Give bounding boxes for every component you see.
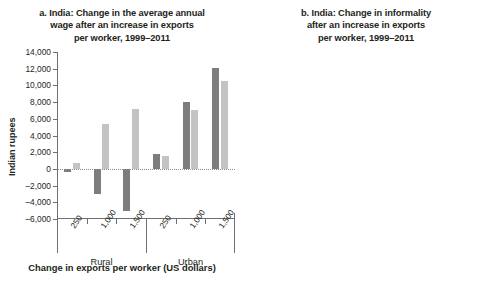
figure-root: a. India: Change in the average annual w… (0, 0, 488, 291)
panel-a-bar-light-1000 (191, 110, 198, 168)
panel-a-y-tick (53, 85, 57, 86)
panel-a-y-tick-label: –6,000 (25, 214, 51, 224)
panel-a-y-tick (53, 136, 57, 137)
panel-a-y-tick-label: 14,000 (25, 47, 51, 57)
panel-b: b. India: Change in informality after an… (244, 0, 488, 291)
panel-a-bar-dark-1000 (94, 169, 101, 194)
panel-a-title-line-1: a. India: Change in the average annual (0, 7, 244, 19)
panel-b-title-line-3: per worker, 1999–2011 (244, 32, 488, 44)
panel-a-y-tick-label: 4,000 (30, 131, 51, 141)
panel-a-plot-area: 14,00012,00010,0008,0006,0004,0002,0000–… (57, 52, 235, 219)
panel-a-title-line-3: per worker, 1999–2011 (0, 32, 244, 44)
panel-a-group-separator (57, 219, 58, 253)
panel-a-y-tick-label: 0 (46, 164, 51, 174)
panel-a-bar-dark-1500 (212, 68, 219, 169)
panel-a-y-tick (53, 69, 57, 70)
panel-a-title: a. India: Change in the average annual w… (0, 7, 244, 44)
panel-b-title: b. India: Change in informality after an… (244, 7, 488, 44)
panel-a-y-tick-label: 10,000 (25, 80, 51, 90)
panel-a-y-tick (53, 119, 57, 120)
panel-a-bar-light-1000 (102, 124, 109, 169)
panel-a-y-tick (53, 102, 57, 103)
panel-a: a. India: Change in the average annual w… (0, 0, 244, 291)
panel-a-bar-light-250 (162, 156, 169, 169)
panel-a-y-tick (53, 52, 57, 53)
panel-a-y-tick-label: –2,000 (25, 181, 51, 191)
panel-a-x-tick (116, 219, 117, 224)
panel-a-x-tick (205, 219, 206, 224)
panel-a-zero-line (57, 169, 235, 170)
panel-a-bar-dark-250 (153, 154, 160, 169)
panel-a-bars (57, 52, 235, 219)
panel-a-bar-dark-1500 (123, 169, 130, 211)
panel-a-y-tick-label: 8,000 (30, 97, 51, 107)
panel-a-y-tick (53, 202, 57, 203)
panel-a-bar-dark-1000 (183, 102, 190, 169)
panel-a-y-axis-label: Indian rupees (7, 117, 17, 176)
panel-a-y-tick (53, 152, 57, 153)
panel-a-y-tick-label: –4,000 (25, 197, 51, 207)
panel-a-x-axis-title: Change in exports per worker (US dollars… (0, 262, 244, 273)
panel-b-title-line-2: after an increase in exports (244, 19, 488, 31)
panel-a-y-tick (53, 186, 57, 187)
panel-a-y-tick-label: 6,000 (30, 114, 51, 124)
panel-a-y-tick (53, 219, 57, 220)
panel-a-bar-light-1500 (221, 81, 228, 169)
panel-b-title-line-1: b. India: Change in informality (244, 7, 488, 19)
panel-a-x-tick (87, 219, 88, 224)
panel-a-x-tick (176, 219, 177, 224)
panel-a-group-separator (234, 219, 235, 253)
panel-a-bar-light-1500 (132, 109, 139, 169)
panel-a-group-separator (146, 219, 147, 253)
panel-a-title-line-2: wage after an increase in exports (0, 19, 244, 31)
panel-a-y-tick-label: 12,000 (25, 64, 51, 74)
panel-a-y-tick-label: 2,000 (30, 147, 51, 157)
